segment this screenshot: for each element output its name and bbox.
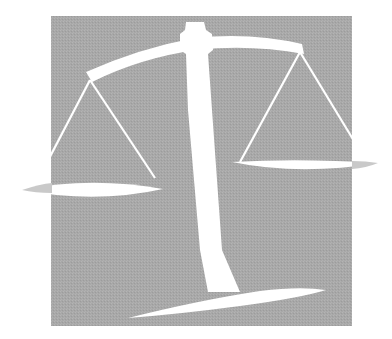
scales-of-justice-icon: [0, 0, 392, 339]
